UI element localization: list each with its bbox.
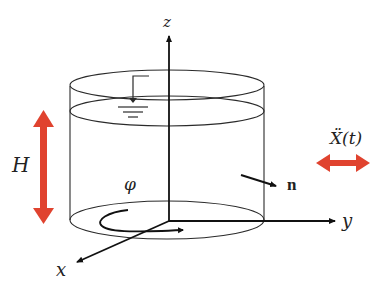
y-axis-label: y [341, 210, 353, 231]
normal-vector [241, 175, 276, 186]
tank-bottom [70, 201, 264, 239]
x-axis [77, 221, 169, 262]
z-axis-label: z [162, 13, 171, 31]
tank-diagram: z y x φ n H Ẍ(t) [0, 0, 389, 289]
height-arrow [33, 110, 54, 224]
height-label: H [11, 153, 30, 177]
tank-cylinder [70, 70, 264, 239]
excitation-arrow [316, 154, 370, 172]
normal-label: n [287, 175, 297, 194]
excitation-label: Ẍ(t) [328, 128, 362, 148]
x-axis-label: x [56, 259, 66, 280]
angle-label: φ [124, 174, 136, 194]
